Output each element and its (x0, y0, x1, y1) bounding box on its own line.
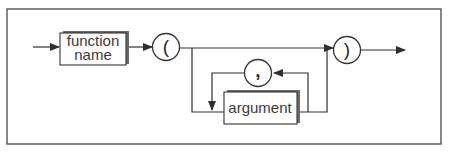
comma-terminal: , (245, 60, 272, 87)
argument-label: argument (228, 99, 292, 116)
comma-glyph: , (255, 60, 260, 81)
lparen-glyph: ( (163, 36, 170, 57)
lparen-terminal: ( (153, 34, 180, 61)
loop-entry-line (192, 48, 224, 112)
argument-box: argument (224, 90, 300, 124)
loop-exit-line (298, 48, 327, 112)
function-name-label-2: name (74, 46, 112, 63)
syntax-diagram: function name ( , argument ) (0, 0, 450, 154)
rparen-terminal: ) (334, 37, 361, 64)
function-name-box: function name (60, 31, 129, 65)
rparen-glyph: ) (344, 39, 350, 60)
